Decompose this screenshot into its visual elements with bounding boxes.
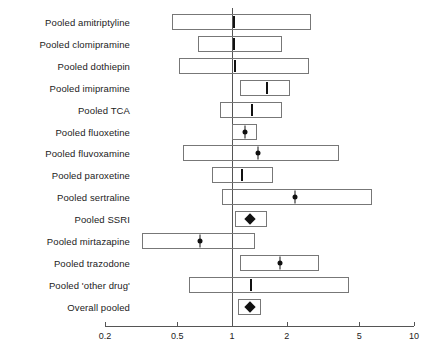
point-estimate-tick: [266, 82, 268, 94]
row-label: Pooled clomipramine: [0, 38, 130, 49]
confidence-interval-box: [183, 145, 339, 161]
row-label: Pooled paroxetine: [0, 170, 130, 181]
confidence-interval-box: [198, 36, 282, 52]
point-estimate-tick: [234, 60, 236, 72]
point-estimate-tick: [279, 256, 280, 269]
point-estimate-tick: [245, 125, 246, 138]
point-estimate-tick: [258, 147, 259, 160]
confidence-interval-box: [172, 14, 311, 30]
x-axis-line: [105, 326, 414, 327]
x-axis-tick: [232, 322, 233, 326]
point-estimate-tick: [295, 191, 296, 204]
point-estimate-tick: [200, 235, 201, 248]
point-estimate-tick: [251, 104, 253, 116]
row-label: Pooled amitriptyline: [0, 17, 130, 28]
row-label: Pooled 'other drug': [0, 279, 130, 290]
row-label: Pooled TCA: [0, 104, 130, 115]
row-label: Pooled fluvoxamine: [0, 148, 130, 159]
row-label: Pooled trazodone: [0, 257, 130, 268]
row-label: Pooled dothiepin: [0, 60, 130, 71]
row-label: Pooled SSRI: [0, 214, 130, 225]
row-label: Pooled fluoxetine: [0, 126, 130, 137]
x-axis-tick-label: 2: [284, 331, 289, 341]
x-axis-tick-label: 5: [357, 331, 362, 341]
point-estimate-tick: [233, 38, 235, 50]
row-label: Pooled sertraline: [0, 192, 130, 203]
forest-plot: 0.20.512510 Pooled amitriptylinePooled c…: [0, 0, 432, 357]
x-axis-tick: [105, 322, 106, 326]
x-axis-tick-label: 0.5: [171, 331, 184, 341]
x-axis-tick-label: 10: [409, 331, 419, 341]
x-axis-tick: [414, 322, 415, 326]
x-axis-tick: [359, 322, 360, 326]
point-estimate-tick: [250, 279, 252, 291]
x-axis-tick-label: 0.2: [99, 331, 112, 341]
row-label: Pooled imipramine: [0, 82, 130, 93]
row-label: Overall pooled: [0, 301, 130, 312]
x-axis-tick: [287, 322, 288, 326]
x-axis-tick: [177, 322, 178, 326]
row-label: Pooled mirtazapine: [0, 236, 130, 247]
point-estimate-tick: [233, 16, 235, 28]
confidence-interval-box: [189, 277, 349, 293]
confidence-interval-box: [179, 58, 309, 74]
point-estimate-tick: [241, 169, 243, 181]
x-axis-tick-label: 1: [230, 331, 235, 341]
